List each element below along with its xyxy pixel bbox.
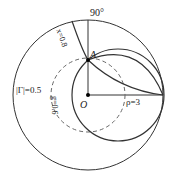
g-circle-label: g=0.6 — [50, 96, 58, 115]
gamma-label: |Γ|=0.5 — [16, 86, 41, 95]
rho-label: ρ=3 — [126, 98, 140, 107]
origin-dot — [86, 93, 90, 97]
point-a-label: A — [90, 50, 96, 60]
angle-label: 90° — [90, 8, 104, 18]
smith-chart-diagram: 90° A O |Γ|=0.5 g=0.6 x=0.8 ρ=3 — [0, 0, 173, 188]
upper-arc — [88, 55, 163, 95]
origin-label: O — [80, 100, 87, 110]
